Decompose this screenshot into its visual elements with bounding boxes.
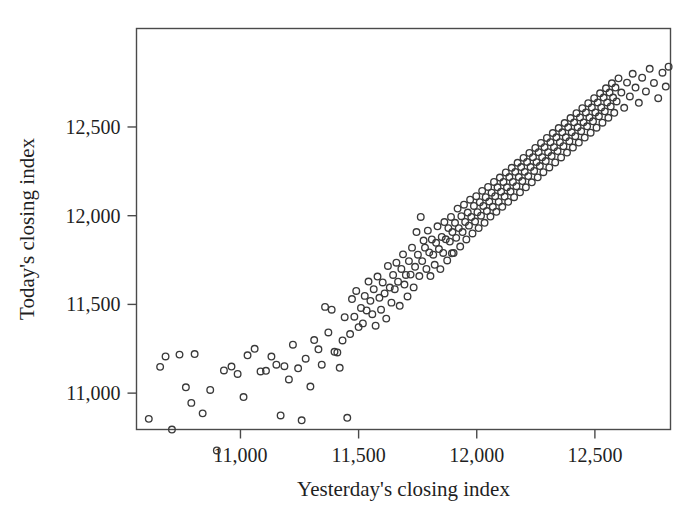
data-point [662, 83, 669, 90]
data-point [521, 169, 528, 176]
data-point [609, 80, 616, 87]
x-axis-tick-label: 12,000 [449, 444, 504, 466]
data-point [336, 364, 343, 371]
data-point [367, 298, 374, 305]
data-point [381, 290, 388, 297]
data-point [517, 189, 524, 196]
data-point [419, 258, 426, 265]
data-point [538, 140, 545, 147]
data-point [374, 273, 381, 280]
y-axis-tick-label: 11,500 [66, 293, 120, 315]
data-point [558, 154, 565, 161]
data-point [497, 174, 504, 181]
data-point [325, 329, 332, 336]
data-point [493, 208, 500, 215]
data-point [388, 299, 395, 306]
data-point [370, 286, 377, 293]
data-point [455, 225, 462, 232]
data-point [436, 246, 443, 253]
x-axis-title: Yesterday's closing index [297, 477, 510, 501]
data-point [464, 209, 471, 216]
data-point [611, 109, 618, 116]
data-point [453, 235, 460, 242]
data-point [561, 120, 568, 127]
data-point [417, 214, 424, 221]
data-point [552, 159, 559, 166]
x-axis-tick-label: 11,500 [331, 444, 385, 466]
data-point [383, 315, 390, 322]
data-point [251, 345, 258, 352]
data-point [349, 296, 356, 303]
data-point [555, 125, 562, 132]
data-point [457, 243, 464, 250]
data-point [378, 306, 385, 313]
data-point [643, 88, 650, 95]
data-point [475, 225, 482, 232]
data-point [409, 244, 416, 251]
data-point [655, 95, 662, 102]
data-point [396, 303, 403, 310]
data-point [593, 124, 600, 131]
data-point [504, 184, 511, 191]
data-point [570, 144, 577, 151]
data-point [510, 179, 517, 186]
data-point [585, 100, 592, 107]
data-point [612, 84, 619, 91]
data-point [318, 361, 325, 368]
data-point [627, 93, 634, 100]
data-point [615, 75, 622, 82]
data-point [355, 324, 362, 331]
data-point [385, 263, 392, 270]
data-point [398, 266, 405, 273]
data-point [427, 273, 434, 280]
data-point [567, 115, 574, 122]
data-point [404, 293, 411, 300]
data-point [322, 304, 329, 311]
y-axis-tick-label: 11,000 [66, 382, 120, 404]
data-point [351, 313, 358, 320]
data-point [277, 412, 284, 419]
data-point [420, 237, 427, 244]
data-point [466, 222, 473, 229]
data-point [444, 257, 451, 264]
data-point [369, 311, 376, 318]
data-point [413, 229, 420, 236]
data-point [526, 150, 533, 157]
data-point [587, 129, 594, 136]
data-point [540, 169, 547, 176]
data-point [459, 229, 466, 236]
data-point [618, 89, 625, 96]
data-point [576, 139, 583, 146]
data-point [347, 331, 354, 338]
data-point [525, 173, 532, 180]
data-point [529, 179, 536, 186]
data-point [462, 219, 469, 226]
data-point [341, 314, 348, 321]
data-point [550, 130, 557, 137]
data-point [344, 414, 351, 421]
data-point [487, 213, 494, 220]
data-point [445, 225, 452, 232]
data-point [454, 205, 461, 212]
data-point [624, 79, 631, 86]
data-point [505, 199, 512, 206]
data-point [295, 365, 302, 372]
data-point [441, 219, 448, 226]
data-point-group [145, 63, 671, 453]
data-point [599, 119, 606, 126]
data-point [514, 160, 521, 167]
data-point [581, 134, 588, 141]
y-axis-tick-label: 12,000 [66, 205, 121, 227]
data-point [564, 149, 571, 156]
data-point [499, 204, 506, 211]
data-point [639, 74, 646, 81]
data-point [372, 322, 379, 329]
data-point [365, 278, 372, 285]
data-point [636, 100, 643, 107]
y-axis-tick-label: 12,500 [66, 116, 121, 138]
data-point [467, 196, 474, 203]
data-point [423, 266, 430, 273]
data-point [228, 363, 235, 370]
scatter-plot-figure: 11,00011,50012,00012,50011,00011,50012,0… [0, 0, 700, 519]
data-point [302, 355, 309, 362]
